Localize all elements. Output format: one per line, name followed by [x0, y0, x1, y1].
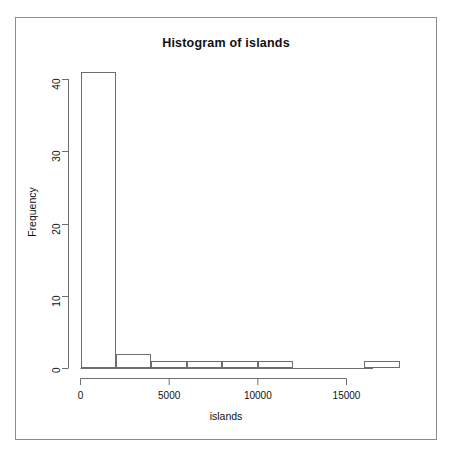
screenshot-root: Histogram of islands	[0, 0, 454, 457]
histogram-bar	[81, 72, 116, 368]
plot-frame: Histogram of islands	[15, 17, 437, 440]
histogram-bar	[222, 361, 257, 368]
histogram-bar	[187, 361, 222, 368]
histogram-bar	[258, 361, 293, 368]
histogram-bar	[364, 361, 399, 368]
histogram-bar	[151, 361, 186, 368]
histogram-bar	[116, 354, 151, 368]
plot-surface: Histogram of islands	[16, 18, 436, 439]
histogram-bars	[16, 18, 438, 441]
